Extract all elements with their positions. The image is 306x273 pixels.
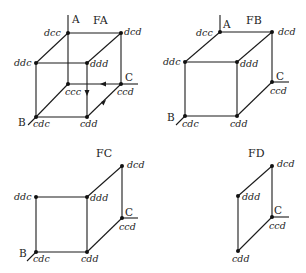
node-dcc (66, 31, 70, 35)
panel-fb: FB A C B dcc dcd ddc ddd ccd cdc cdd (163, 14, 295, 129)
label-dcc: dcc (44, 27, 61, 38)
arrow-down-icon (85, 90, 90, 96)
label-dcd: dcd (277, 158, 294, 169)
label-ddc: ddc (14, 57, 32, 68)
label-ccd: ccd (269, 220, 286, 231)
label-cdd: cdd (81, 253, 98, 264)
edge-ccc-cdc (36, 84, 68, 117)
node-ddd (85, 61, 89, 65)
axis-b-label: B (167, 111, 175, 123)
node-dcc (218, 30, 222, 34)
label-cdc: cdc (182, 118, 199, 129)
panel-title: FB (246, 14, 262, 27)
axis-c-label: C (274, 204, 282, 216)
node-dcd (120, 164, 124, 168)
axis-c-label: C (125, 71, 133, 83)
node-ccd (120, 216, 124, 220)
label-dcc: dcc (196, 27, 213, 38)
node-ddd (235, 60, 239, 64)
label-cdd: cdd (230, 118, 247, 129)
axis-c-label: C (276, 70, 284, 82)
arrow-left-icon (100, 82, 106, 87)
axis-a-label: A (71, 13, 80, 25)
label-ddd: ddd (90, 58, 108, 69)
axis-a-label: A (222, 18, 231, 30)
label-dcd: dcd (127, 159, 144, 170)
label-ddd: ddd (240, 58, 258, 69)
panel-title: FC (96, 147, 112, 160)
node-ccd (270, 80, 274, 84)
label-dcd: dcd (124, 26, 141, 37)
axis-c-label: C (125, 206, 133, 218)
label-ddd: ddd (90, 192, 108, 203)
edge-ccd-cdd (87, 218, 122, 252)
label-cdc: cdc (33, 118, 50, 129)
panel-fc: FC C B dcd ddc ddd ccd cdc cdd (14, 147, 144, 264)
edge-ccd-cdd (237, 82, 272, 116)
node-ddc (34, 61, 38, 65)
panel-title: FD (248, 147, 265, 160)
node-ddc (183, 60, 187, 64)
label-ccd: ccd (117, 86, 134, 97)
node-ddd (236, 194, 240, 198)
node-dcd (270, 164, 274, 168)
label-ccd: ccd (119, 221, 136, 232)
axis-b-label: B (18, 116, 26, 128)
label-cdd: cdd (80, 118, 97, 129)
panel-title: FA (93, 14, 109, 27)
node-ddd (85, 195, 89, 199)
label-cdc: cdc (33, 253, 50, 264)
node-ddc (34, 195, 38, 199)
node-dcd (270, 30, 274, 34)
label-ddc: ddc (14, 191, 32, 202)
node-dcd (119, 31, 123, 35)
axis-b-label: B (19, 247, 27, 259)
edge-ccd-cdd (238, 217, 272, 251)
label-ccd: ccd (270, 85, 287, 96)
panel-fa: FA A C B dcc dcd ddc ddd ccc ccd cdc cdd (14, 13, 141, 129)
label-ccc: ccc (65, 86, 82, 97)
label-ddd: ddd (242, 191, 260, 202)
label-cdd: cdd (232, 253, 249, 264)
panel-fd: FD C dcd ddd ccd cdd (232, 147, 294, 264)
edge-ccd-cdd (87, 84, 121, 117)
label-ddc: ddc (163, 56, 181, 67)
label-dcd: dcd (278, 26, 295, 37)
diagram-canvas: FA A C B dcc dcd ddc ddd ccc ccd cdc cdd… (0, 0, 306, 273)
